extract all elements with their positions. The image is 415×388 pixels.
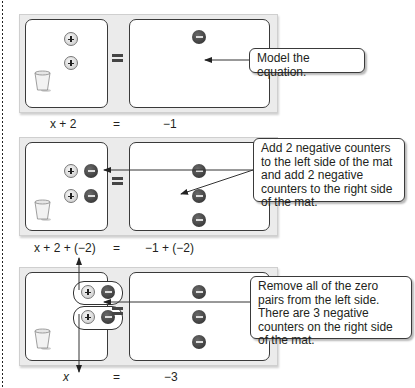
- arrow-to-right-mat: [181, 170, 253, 194]
- pointer-arrows: [0, 0, 415, 388]
